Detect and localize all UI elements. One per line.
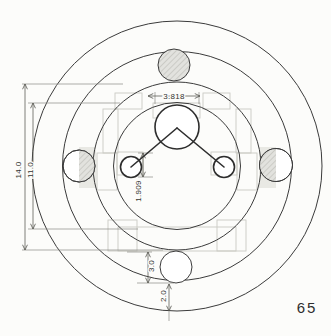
- label-top-width: 3.818: [163, 92, 185, 101]
- block-upper-right: [236, 109, 251, 153]
- stud-bottom: [160, 251, 192, 283]
- molecule-center-circle: [155, 105, 199, 149]
- stud-top: [158, 49, 190, 81]
- block-top-right: [203, 93, 230, 109]
- block-upper-left: [103, 109, 118, 153]
- block-bottom-left: [108, 220, 137, 251]
- label-diameter-outer: 14.0: [14, 161, 23, 178]
- label-bottom-circle: 3.0: [147, 260, 156, 272]
- block-bottom-right: [217, 220, 246, 251]
- page-number: 65: [297, 299, 318, 316]
- drawing-page: 3.818 1.909 14.0 11.0 3.0 2.0 65: [0, 0, 331, 336]
- technical-drawing: 3.818 1.909 14.0 11.0 3.0 2.0 65: [0, 0, 331, 336]
- label-outer-gap: 2.0: [159, 290, 168, 302]
- label-half-width: 1.909: [134, 180, 143, 202]
- block-top-left: [115, 93, 142, 109]
- label-diameter-inner: 11.0: [26, 162, 35, 178]
